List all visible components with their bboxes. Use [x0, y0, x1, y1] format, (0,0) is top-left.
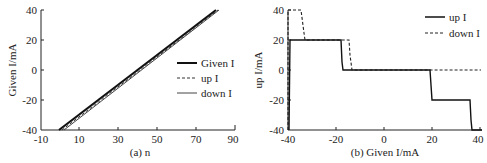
x-axis-label: (a) n: [130, 146, 151, 159]
series-up: [62, 10, 218, 130]
ytick: 20: [26, 34, 38, 46]
xtick: 30: [113, 133, 125, 145]
series-down: [64, 10, 219, 130]
xtick: 0: [381, 133, 387, 145]
svg-text:Given I: Given I: [201, 57, 235, 69]
ytick: 40: [273, 4, 285, 16]
xtick: -40: [281, 133, 296, 145]
panel-a: 40 20 0 -20 -40 -10 10 30 50 70 90 (a) n…: [6, 4, 239, 159]
ytick: -20: [22, 94, 37, 106]
svg-text:up I: up I: [449, 11, 467, 23]
ytick: -20: [269, 94, 284, 106]
xtick: -20: [329, 133, 344, 145]
xtick: 40: [473, 133, 485, 145]
svg-text:down I: down I: [449, 27, 480, 39]
ytick: 20: [273, 34, 285, 46]
figure: 40 20 0 -20 -40 -10 10 30 50 70 90 (a) n…: [0, 0, 487, 163]
legend-b: up I down I: [425, 11, 480, 39]
xtick: 10: [74, 133, 86, 145]
y-axis-label: Given I/mA: [6, 44, 18, 97]
xtick: 90: [228, 133, 240, 145]
svg-text:down I: down I: [201, 87, 232, 99]
xtick: 50: [152, 133, 164, 145]
series-given: [59, 10, 216, 130]
y-axis-label: up I/mA: [252, 51, 264, 88]
x-axis-label: (b) Given I/mA: [351, 146, 419, 159]
ytick: 40: [26, 4, 38, 16]
svg-text:up I: up I: [201, 72, 219, 84]
xtick: 20: [427, 133, 439, 145]
series-up: [289, 40, 482, 130]
xtick: -10: [34, 133, 49, 145]
legend-a: Given I up I down I: [177, 57, 235, 99]
ytick: 0: [32, 64, 38, 76]
panel-b: 40 20 0 -20 -40 -40 -20 0 20 40 (b) Give…: [252, 4, 484, 159]
xtick: 70: [191, 133, 203, 145]
ytick: 0: [279, 64, 285, 76]
